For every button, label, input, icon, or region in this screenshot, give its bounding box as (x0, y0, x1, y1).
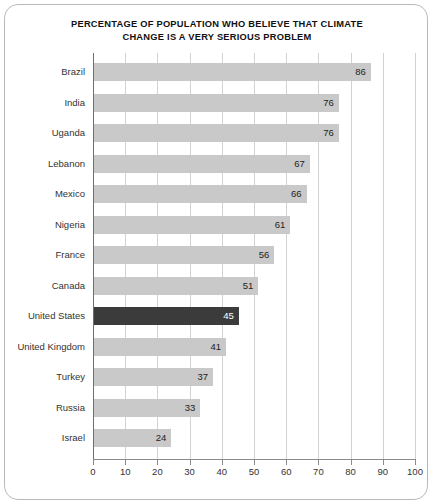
tick-20 (157, 460, 158, 465)
bar-value-label: 41 (210, 338, 221, 356)
bar-rows: Brazil86India76Uganda76Lebanon67Mexico66… (5, 53, 432, 459)
x-tick-label-100: 100 (395, 466, 432, 477)
category-label-india: India (5, 88, 85, 118)
bar-row: France56 (5, 240, 432, 270)
bar-mexico[interactable]: 66 (94, 185, 307, 203)
bar-value-label: 33 (185, 399, 196, 417)
tick-80 (351, 460, 352, 465)
tick-70 (318, 460, 319, 465)
bar-canada[interactable]: 51 (94, 277, 258, 295)
tick-90 (383, 460, 384, 465)
category-label-lebanon: Lebanon (5, 149, 85, 179)
bar-value-label: 45 (223, 307, 234, 325)
bar-nigeria[interactable]: 61 (94, 216, 290, 234)
bar-row: Turkey37 (5, 362, 432, 392)
bar-row: Nigeria61 (5, 210, 432, 240)
tick-60 (286, 460, 287, 465)
bar-value-label: 56 (259, 246, 270, 264)
category-label-france: France (5, 240, 85, 270)
category-label-nigeria: Nigeria (5, 210, 85, 240)
tick-30 (190, 460, 191, 465)
bar-row: Lebanon67 (5, 149, 432, 179)
chart-title-line-1: PERCENTAGE OF POPULATION WHO BELIEVE THA… (45, 18, 389, 31)
category-label-brazil: Brazil (5, 57, 85, 87)
bar-uganda[interactable]: 76 (94, 124, 339, 142)
bar-india[interactable]: 76 (94, 94, 339, 112)
tick-10 (125, 460, 126, 465)
tick-100 (415, 460, 416, 465)
x-axis-tick-labels: 0102030405060708090100 (5, 466, 432, 482)
bar-value-label: 67 (294, 155, 305, 173)
bar-united-kingdom[interactable]: 41 (94, 338, 226, 356)
bar-united-states[interactable]: 45 (94, 307, 239, 325)
bar-row: Russia33 (5, 393, 432, 423)
chart-title: PERCENTAGE OF POPULATION WHO BELIEVE THA… (45, 18, 389, 43)
category-label-turkey: Turkey (5, 362, 85, 392)
bar-value-label: 86 (355, 63, 366, 81)
bar-row: Brazil86 (5, 57, 432, 87)
bar-value-label: 24 (156, 429, 167, 447)
category-label-united-states: United States (5, 301, 85, 331)
category-label-canada: Canada (5, 271, 85, 301)
bar-israel[interactable]: 24 (94, 429, 171, 447)
bar-turkey[interactable]: 37 (94, 368, 213, 386)
tick-0 (93, 460, 94, 465)
bar-row: India76 (5, 88, 432, 118)
tick-40 (222, 460, 223, 465)
bar-value-label: 76 (323, 124, 334, 142)
bar-value-label: 61 (275, 216, 286, 234)
bar-row: Uganda76 (5, 118, 432, 148)
bar-russia[interactable]: 33 (94, 399, 200, 417)
category-label-mexico: Mexico (5, 179, 85, 209)
category-label-united-kingdom: United Kingdom (5, 332, 85, 362)
chart-card: PERCENTAGE OF POPULATION WHO BELIEVE THA… (4, 4, 428, 500)
bar-value-label: 76 (323, 94, 334, 112)
bar-value-label: 51 (243, 277, 254, 295)
tick-50 (254, 460, 255, 465)
bar-lebanon[interactable]: 67 (94, 155, 310, 173)
category-label-israel: Israel (5, 423, 85, 453)
bar-row: Israel24 (5, 423, 432, 453)
bar-row: Mexico66 (5, 179, 432, 209)
bar-value-label: 66 (291, 185, 302, 203)
chart-title-line-2: CHANGE IS A VERY SERIOUS PROBLEM (45, 31, 389, 44)
category-label-uganda: Uganda (5, 118, 85, 148)
bar-row: United Kingdom41 (5, 332, 432, 362)
bar-value-label: 37 (198, 368, 209, 386)
bar-row: Canada51 (5, 271, 432, 301)
bar-row: United States45 (5, 301, 432, 331)
bar-brazil[interactable]: 86 (94, 63, 371, 81)
category-label-russia: Russia (5, 393, 85, 423)
x-axis-ticks (93, 460, 415, 465)
bar-france[interactable]: 56 (94, 246, 274, 264)
